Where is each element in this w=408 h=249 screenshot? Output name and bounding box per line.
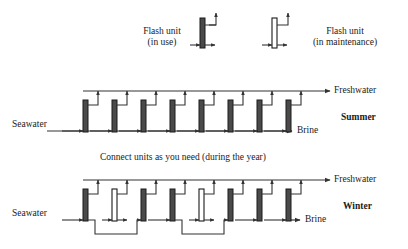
row-winter [62, 180, 330, 234]
summer-brine-label: Brine [297, 125, 318, 135]
winter-freshwater-label: Freshwater [334, 174, 376, 184]
legend-symbol-in-maintenance [262, 13, 288, 48]
legend-in-use-line2: (in use) [130, 37, 194, 48]
summer-seawater-label: Seawater [12, 119, 47, 129]
row-summer [47, 91, 330, 132]
summer-units [62, 91, 301, 132]
legend-in-maintenance-line1: Flash unit [295, 26, 395, 37]
legend-in-maintenance-line2: (in maintenance) [295, 37, 395, 48]
winter-units [62, 180, 301, 234]
flash-desalination-diagram: Flash unit (in use) Flash unit (in maint… [0, 0, 408, 249]
legend-label-in-maintenance: Flash unit (in maintenance) [295, 26, 395, 48]
legend-group [190, 13, 288, 48]
winter-seawater-label: Seawater [12, 208, 47, 218]
summer-freshwater-label: Freshwater [334, 85, 376, 95]
summer-season-label: Summer [341, 112, 376, 122]
legend-in-use-line1: Flash unit [130, 26, 194, 37]
middle-caption: Connect units as you need (during the ye… [100, 152, 266, 162]
winter-season-label: Winter [343, 201, 372, 211]
winter-brine-label: Brine [305, 214, 326, 224]
legend-label-in-use: Flash unit (in use) [130, 26, 194, 48]
